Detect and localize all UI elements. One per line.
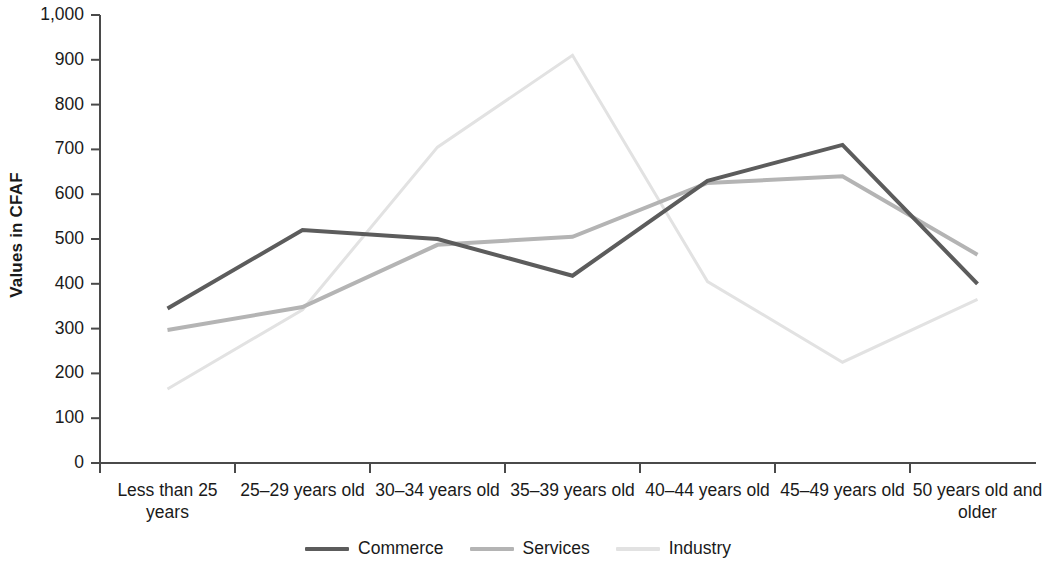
legend-item-services[interactable]: Services [470,538,590,559]
series-line-commerce [168,145,978,309]
series-line-industry [168,55,978,389]
y-axis-tick-label: 600 [0,183,84,204]
legend-item-commerce[interactable]: Commerce [305,538,444,559]
legend-swatch-icon [305,547,349,551]
x-axis-ticks [100,463,910,473]
y-axis-tick-label: 400 [0,273,84,294]
y-axis-tick-label: 0 [0,452,84,473]
legend-label: Commerce [358,538,444,559]
x-axis-tick-label: 25–29 years old [235,479,370,501]
x-axis-tick-label: Less than 25 years [100,479,235,523]
y-axis-ticks [91,15,100,463]
y-axis-tick-label: 500 [0,228,84,249]
y-axis-tick-label: 300 [0,318,84,339]
y-axis-tick-label: 800 [0,94,84,115]
series-lines [168,55,978,389]
x-axis-tick-label: 35–39 years old [505,479,640,501]
y-axis-tick-label: 100 [0,407,84,428]
legend-label: Industry [669,538,731,559]
y-axis-tick-label: 700 [0,138,84,159]
chart-legend: CommerceServicesIndustry [0,538,1036,559]
legend-swatch-icon [616,547,660,551]
y-axis-tick-label: 900 [0,49,84,70]
legend-swatch-icon [470,547,514,551]
legend-item-industry[interactable]: Industry [616,538,731,559]
y-axis-tick-label: 200 [0,362,84,383]
series-line-services [168,176,978,330]
legend-label: Services [523,538,590,559]
x-axis-tick-label: 45–49 years old [775,479,910,501]
y-axis-tick-label: 1,000 [0,4,84,25]
x-axis-tick-label: 50 years old and older [910,479,1045,523]
x-axis-tick-label: 30–34 years old [370,479,505,501]
x-axis-tick-label: 40–44 years old [640,479,775,501]
